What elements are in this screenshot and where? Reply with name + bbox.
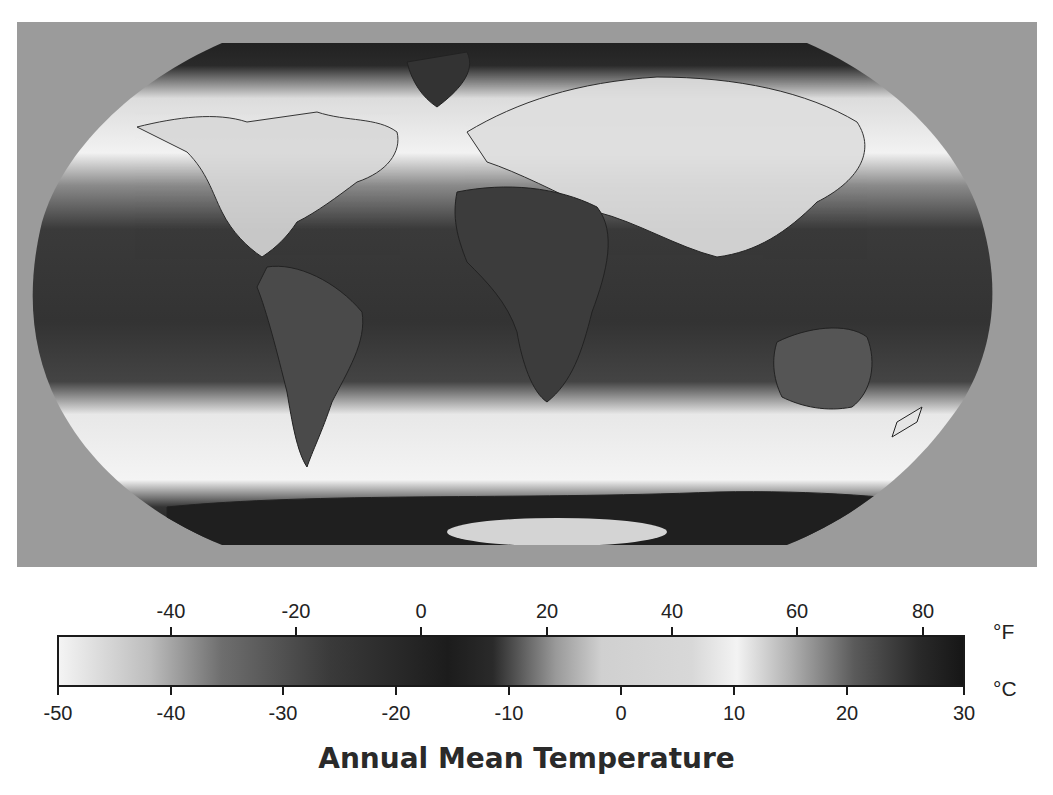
tick-f-40 xyxy=(671,627,673,636)
tick-c-neg30 xyxy=(282,686,284,695)
label-f: -40 xyxy=(157,600,186,623)
label-f: 80 xyxy=(912,600,934,623)
label-c: -40 xyxy=(157,702,186,725)
tick-f-0 xyxy=(420,627,422,636)
label-c: -20 xyxy=(382,702,411,725)
label-c: 0 xyxy=(615,702,626,725)
celsius-unit-label: °C xyxy=(993,677,1017,701)
fahrenheit-unit-label: °F xyxy=(993,620,1014,644)
tick-c-neg40 xyxy=(170,686,172,695)
label-f: -20 xyxy=(282,600,311,623)
tick-c-10 xyxy=(733,686,735,695)
tick-c-30 xyxy=(963,686,965,695)
tick-f-80 xyxy=(922,627,924,636)
tick-c-neg50 xyxy=(57,686,59,695)
label-f: 20 xyxy=(536,600,558,623)
tick-c-neg10 xyxy=(508,686,510,695)
label-f: 60 xyxy=(786,600,808,623)
temperature-colorbar xyxy=(57,635,965,687)
tick-c-neg20 xyxy=(395,686,397,695)
label-c: -10 xyxy=(495,702,524,725)
tick-c-20 xyxy=(846,686,848,695)
tick-c-0 xyxy=(620,686,622,695)
label-c: 20 xyxy=(836,702,858,725)
tick-f-neg40 xyxy=(170,627,172,636)
australia xyxy=(774,328,872,409)
map-frame xyxy=(17,22,1037,567)
label-c: -50 xyxy=(44,702,73,725)
tick-f-neg20 xyxy=(295,627,297,636)
tick-f-60 xyxy=(796,627,798,636)
label-f: 0 xyxy=(415,600,426,623)
tick-f-20 xyxy=(546,627,548,636)
world-temperature-map xyxy=(17,22,1037,567)
label-c: 30 xyxy=(953,702,975,725)
label-c: -30 xyxy=(269,702,298,725)
label-f: 40 xyxy=(661,600,683,623)
chart-title: Annual Mean Temperature xyxy=(0,742,1053,775)
label-c: 10 xyxy=(723,702,745,725)
